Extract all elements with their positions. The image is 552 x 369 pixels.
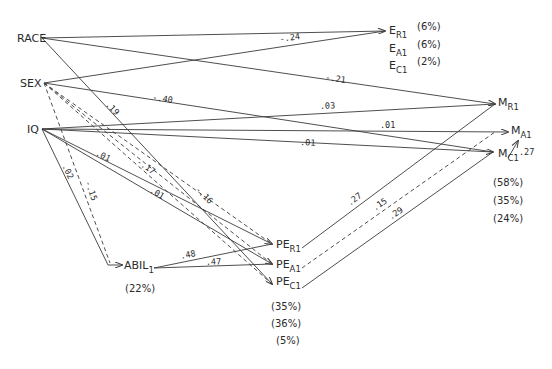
coef-sex-abil: -.15 — [83, 179, 99, 202]
coef-abil-per: .48 — [179, 248, 196, 261]
abil-r2: (22%) — [125, 283, 155, 294]
node-e-c1: EC1 — [389, 59, 407, 75]
node-sex: SEX — [20, 77, 42, 90]
path-sex-to-mc — [44, 83, 493, 152]
coef-iq-abil: .02 — [60, 162, 76, 180]
path-sex-to-abil — [44, 83, 110, 263]
node-race: RACE — [17, 32, 46, 45]
m-r1-r2: (58%) — [493, 177, 523, 188]
coef-sex-pec: -.16 — [194, 184, 216, 206]
path-iq-to-ma — [42, 129, 508, 132]
coef-sex-mc: -.40 — [152, 92, 174, 105]
node-m-a1: MA1 — [511, 124, 532, 140]
node-pe-c1: PEC1 — [276, 275, 301, 291]
coef-race-m: -.21 — [325, 72, 347, 85]
path-pea-to-ma — [302, 132, 495, 268]
coef-per-mr: .27 — [345, 190, 363, 207]
path-pec-to-mc — [302, 152, 493, 288]
node-abil: ABIL1 — [124, 259, 154, 275]
path-race-to-e — [42, 31, 385, 38]
coef-mc-ma: .27 — [519, 147, 534, 157]
coef-iq-mc: .01 — [300, 137, 316, 148]
node-e-r1: ER1 — [389, 24, 407, 40]
e-c1-r2: (2%) — [417, 56, 441, 67]
node-pe-a1: PEA1 — [276, 258, 301, 274]
path-sex-to-per — [44, 83, 272, 244]
coef-sex-e: -.24 — [279, 31, 301, 44]
coef-iq-mr: .03 — [320, 100, 336, 111]
path-sex-to-pea — [44, 83, 272, 264]
coef-race-pe: .19 — [104, 99, 122, 117]
e-a1-r2: (6%) — [417, 39, 441, 50]
node-m-c1: MC1 — [498, 147, 519, 163]
node-m-r1: MR1 — [498, 96, 519, 112]
node-iq: IQ — [27, 123, 39, 136]
coef-abil-pea: .47 — [206, 256, 222, 267]
m-a1-r2: (35%) — [493, 195, 523, 206]
path-race-to-pec — [42, 38, 272, 284]
node-e-a1: EA1 — [389, 42, 407, 58]
pe-a1-r2: (36%) — [271, 318, 301, 329]
pe-r1-r2: (35%) — [271, 301, 301, 312]
coef-pea-ma: .15 — [370, 196, 388, 213]
path-diagram: RACE SEX IQ ABIL1 (22%) PER1 PEA1 PEC1 (… — [0, 0, 552, 369]
path-per-to-mr — [302, 104, 495, 248]
node-pe-r1: PER1 — [276, 238, 301, 254]
coef-pec-mc: .29 — [386, 205, 404, 222]
m-c1-r2: (24%) — [493, 213, 523, 224]
coef-iq-pea: .01 — [148, 185, 166, 201]
coef-iq-ma: .01 — [380, 120, 395, 130]
pe-c1-r2: (5%) — [276, 335, 300, 346]
e-r1-r2: (6%) — [417, 21, 441, 32]
